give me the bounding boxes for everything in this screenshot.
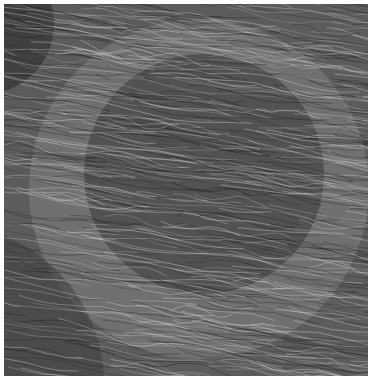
flow-line-artwork xyxy=(4,4,368,376)
artwork-canvas xyxy=(4,4,368,376)
